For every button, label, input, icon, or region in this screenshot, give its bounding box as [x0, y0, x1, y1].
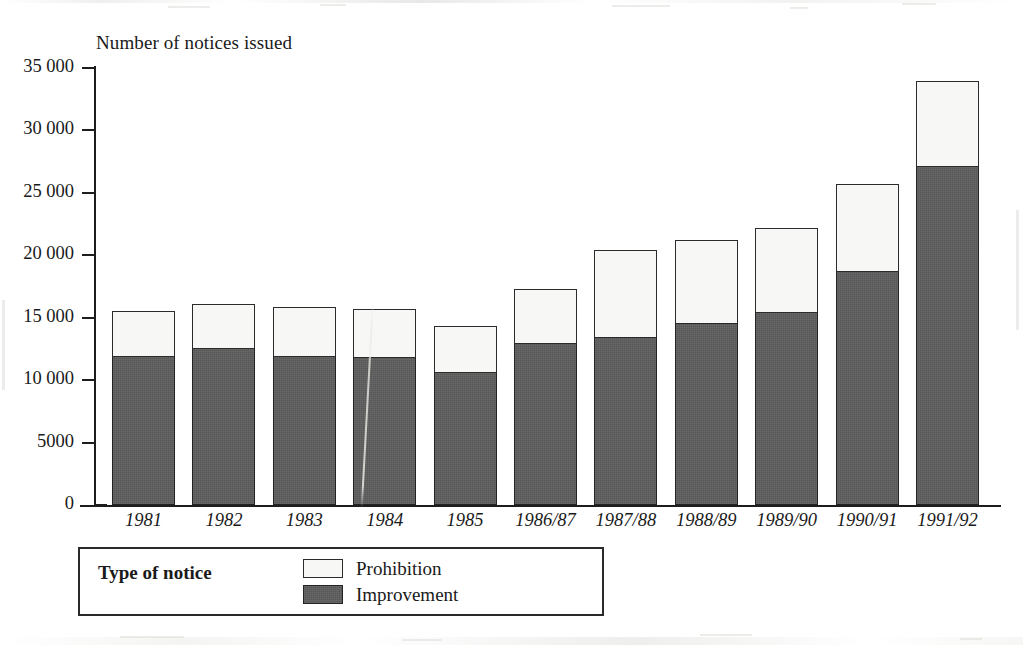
- y-tick-label-10000: 10 000: [0, 368, 74, 389]
- bar-segment-improvement: [594, 336, 657, 505]
- y-tick-10000: [82, 379, 96, 381]
- x-tick-label-1987-88: 1987/88: [580, 510, 671, 531]
- bar-group: [434, 326, 497, 505]
- scan-artifact-speck: [402, 639, 442, 641]
- bar-group: [514, 289, 577, 505]
- bar-group: [916, 81, 979, 506]
- scan-artifact-speck: [320, 4, 346, 6]
- bar-group: [675, 240, 738, 505]
- bar-segment-improvement: [112, 355, 175, 505]
- bar-segment-improvement: [675, 323, 738, 505]
- x-tick-label-1982: 1982: [178, 510, 269, 531]
- y-tick-0: [96, 504, 107, 506]
- x-tick-label-1989-90: 1989/90: [741, 510, 832, 531]
- legend-label-prohibition: Prohibition: [356, 559, 442, 578]
- scan-artifact-speck: [700, 634, 752, 636]
- bar-group: [594, 250, 657, 505]
- bar-segment-improvement: [192, 348, 255, 505]
- legend-entry-improvement: Improvement: [303, 585, 458, 604]
- bar-group: [112, 311, 175, 505]
- legend-entry-prohibition: Prohibition: [303, 559, 442, 578]
- bar-segment-prohibition: [755, 228, 818, 313]
- bar-segment-improvement: [273, 355, 336, 505]
- legend-swatch-improvement: [303, 585, 343, 604]
- scan-artifact-speck: [790, 7, 808, 9]
- bar-group: [836, 184, 899, 505]
- y-tick-label-20000: 20 000: [0, 243, 74, 264]
- y-tick-30000: [82, 129, 96, 131]
- scan-artifact-speck: [960, 638, 982, 640]
- bar-segment-prohibition: [112, 311, 175, 356]
- bar-segment-prohibition: [273, 307, 336, 357]
- y-tick-label-0: 0: [0, 493, 74, 514]
- bar-segment-prohibition: [353, 309, 416, 358]
- bar-segment-prohibition: [836, 184, 899, 272]
- x-tick-label-1981: 1981: [98, 510, 189, 531]
- bar-segment-prohibition: [916, 81, 979, 168]
- legend-title: Type of notice: [98, 562, 212, 584]
- bar-segment-improvement: [353, 356, 416, 505]
- y-tick-35000: [82, 67, 96, 69]
- y-tick-15000: [82, 317, 96, 319]
- x-tick-label-1984: 1984: [339, 510, 430, 531]
- x-tick-label-1985: 1985: [420, 510, 511, 531]
- bar-group: [353, 309, 416, 505]
- y-tick-label-15000: 15 000: [0, 306, 74, 327]
- bar-segment-improvement: [434, 371, 497, 505]
- scan-artifact-speck: [612, 5, 670, 7]
- scan-artifact-speck: [902, 3, 936, 5]
- scan-artifact-speck: [168, 6, 210, 8]
- y-tick-5000: [82, 442, 96, 444]
- y-tick-25000: [82, 192, 96, 194]
- x-axis-line: [80, 505, 1001, 507]
- y-tick-label-30000: 30 000: [0, 118, 74, 139]
- bar-segment-prohibition: [675, 240, 738, 324]
- bar-segment-prohibition: [192, 304, 255, 349]
- scan-artifact-speck: [1016, 210, 1019, 330]
- bar-segment-prohibition: [434, 326, 497, 373]
- x-tick-label-1991-92: 1991/92: [902, 510, 993, 531]
- legend: Type of notice Prohibition Improvement: [78, 547, 604, 616]
- y-tick-20000: [82, 254, 96, 256]
- bar-group: [273, 306, 336, 505]
- legend-swatch-prohibition: [303, 559, 343, 578]
- legend-label-improvement: Improvement: [356, 585, 458, 604]
- bar-group: [755, 228, 818, 505]
- x-tick-label-1983: 1983: [259, 510, 350, 531]
- bar-group: [192, 304, 255, 505]
- x-tick-label-1990-91: 1990/91: [822, 510, 913, 531]
- bar-segment-improvement: [916, 165, 979, 505]
- bar-segment-improvement: [514, 343, 577, 505]
- bar-segment-improvement: [836, 270, 899, 505]
- stacked-bar-chart: Number of notices issued 0500010 00015 0…: [0, 0, 1023, 645]
- x-tick-label-1986-87: 1986/87: [500, 510, 591, 531]
- y-tick-label-25000: 25 000: [0, 181, 74, 202]
- x-tick-label-1988-89: 1988/89: [661, 510, 752, 531]
- bar-segment-prohibition: [514, 289, 577, 344]
- y-tick-label-35000: 35 000: [0, 56, 74, 77]
- bar-segment-improvement: [755, 311, 818, 505]
- y-axis-title: Number of notices issued: [96, 32, 292, 54]
- scan-artifact-top: [0, 0, 1023, 3]
- scan-artifact-bottom: [0, 637, 1023, 645]
- bar-segment-prohibition: [594, 250, 657, 338]
- scan-artifact-speck: [120, 636, 184, 638]
- y-tick-label-5000: 5000: [0, 431, 74, 452]
